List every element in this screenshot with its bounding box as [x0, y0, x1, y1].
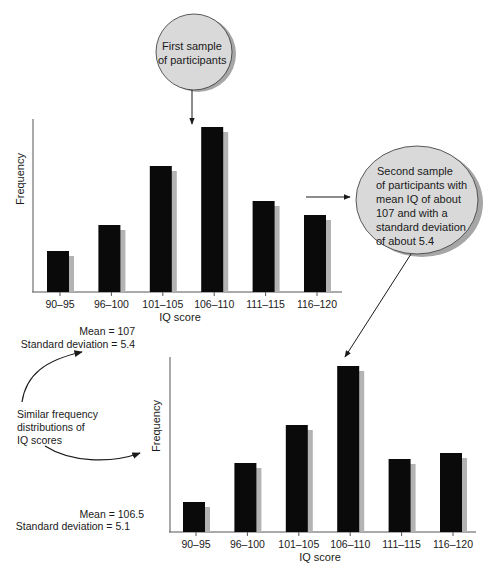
arrow-second-to-bottom-chart [345, 254, 411, 357]
bottom-sd-label: Standard deviation = 5.1 [16, 520, 130, 532]
top-chart: Frequency 90–9596–100101–105106–110111–1… [14, 119, 342, 323]
bottom-x-axis-label: IQ score [299, 551, 341, 563]
bottom-ticks: 90–9596–100101–105106–110111–115116–120 [181, 532, 473, 550]
x-tick-label: 106–110 [330, 538, 370, 550]
bar-106–110 [201, 127, 223, 292]
bubble-text-line-4: 107 and with a [376, 207, 448, 219]
bar-111–115 [253, 201, 275, 292]
bubble-text-line-2: of participants with [376, 179, 467, 191]
x-tick-label: 96–100 [94, 298, 129, 310]
bar-111–115 [389, 459, 411, 532]
x-tick-label: 90–95 [181, 538, 210, 550]
x-tick-label: 101–105 [142, 298, 183, 310]
bubble-text-line-6: of about 5.4 [376, 235, 434, 247]
bar-116–120 [440, 453, 462, 532]
bar-101–105 [286, 425, 308, 532]
similar-line-1: Similar frequency [17, 408, 99, 420]
x-tick-label: 111–115 [382, 538, 421, 550]
x-tick-label: 96–100 [230, 538, 265, 550]
bar-106–110 [337, 366, 359, 532]
bar-96–100 [98, 225, 120, 292]
curved-arrow-to-top-stats [22, 352, 82, 402]
x-tick-label: 101–105 [278, 538, 319, 550]
first-sample-bubble: First sample of participants [156, 14, 236, 92]
top-sd-label: Standard deviation = 5.4 [21, 338, 135, 350]
diagram-canvas: First sample of participants Frequency 9… [0, 0, 491, 569]
x-tick-label: 111–115 [246, 298, 285, 310]
second-sample-bubble: Second sample of participants with mean … [356, 146, 483, 257]
bottom-bars [183, 366, 467, 532]
x-tick-label: 116–120 [433, 538, 473, 550]
bubble-text-line-5: standard deviation [376, 221, 466, 233]
bottom-chart: Frequency 90–9596–100101–105106–110111–1… [150, 357, 476, 563]
x-tick-label: 90–95 [45, 298, 74, 310]
top-x-axis-label: IQ score [159, 311, 201, 323]
top-y-axis-label: Frequency [14, 153, 26, 205]
bottom-mean-label: Mean = 106.5 [79, 508, 144, 520]
bar-101–105 [150, 166, 172, 292]
top-bars [47, 127, 331, 292]
bar-90–95 [47, 251, 69, 292]
bar-116–120 [304, 215, 326, 292]
bubble-text-line-3: mean IQ of about [376, 193, 461, 205]
top-ticks: 90–9596–100101–105106–110111–115116–120 [45, 292, 337, 310]
bubble-text-line-2: of participants [158, 54, 227, 66]
bar-90–95 [183, 502, 205, 532]
bottom-y-axis-label: Frequency [150, 400, 162, 452]
x-tick-label: 116–120 [297, 298, 337, 310]
x-tick-label: 106–110 [194, 298, 234, 310]
bubble-text-line-1: Second sample [377, 165, 453, 177]
bubble-text-line-1: First sample [162, 40, 222, 52]
curved-arrow-to-bottom-chart [45, 446, 140, 460]
similar-line-3: IQ scores [17, 434, 62, 446]
top-mean-label: Mean = 107 [79, 325, 135, 337]
similar-line-2: distributions of [17, 421, 85, 433]
bubble-shape [156, 14, 232, 90]
bar-96–100 [234, 463, 256, 532]
